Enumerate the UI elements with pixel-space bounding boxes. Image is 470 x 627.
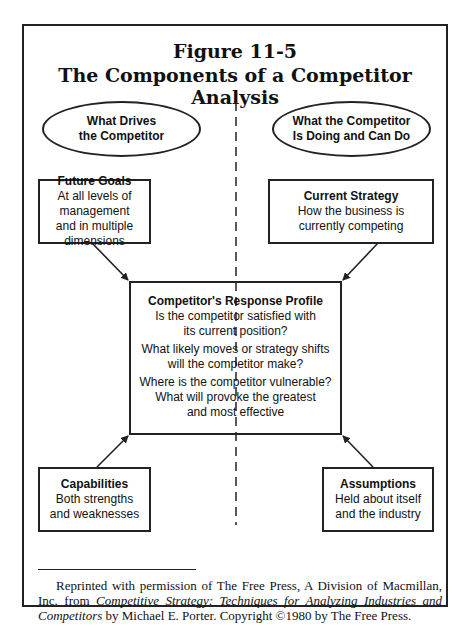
box-line: Both strengths (56, 492, 133, 507)
box-line: and the industry (335, 507, 420, 522)
box-response-profile: Competitor's Response Profile Is the com… (129, 281, 342, 435)
header-line: What Drives (79, 114, 164, 129)
question-line: will the competitor make? (168, 357, 303, 371)
question-line: Is the competitor satisfied with (155, 309, 316, 323)
credit-text: Reprinted with permission of The Free Pr… (38, 578, 442, 623)
box-title: Current Strategy (304, 189, 399, 204)
question-line: its current position? (183, 324, 287, 338)
arrow-capabilities (97, 436, 128, 467)
box-line: and in multiple dimensions (40, 219, 149, 249)
box-title: Assumptions (340, 477, 416, 492)
box-title: Competitor's Response Profile (148, 294, 323, 308)
question-line: Where is the competitor vulnerable? (139, 375, 331, 389)
box-title: Capabilities (61, 477, 128, 492)
box-capabilities: Capabilities Both strengths and weakness… (38, 467, 151, 532)
box-line: and weaknesses (50, 507, 139, 522)
header-what-drives: What Drivesthe Competitor (42, 101, 201, 157)
box-current-strategy: Current Strategy How the business is cur… (268, 179, 434, 244)
header-line: Is Doing and Can Do (293, 129, 411, 144)
question-line: and most effective (187, 405, 284, 419)
footnote-rule (38, 569, 196, 570)
box-assumptions: Assumptions Held about itself and the in… (322, 467, 434, 532)
arrow-assumptions (343, 436, 373, 467)
box-title: Future Goals (57, 174, 131, 189)
question-line: What likely moves or strategy shifts (141, 342, 329, 356)
box-line: How the business is (298, 204, 405, 219)
credit-part2: by Michael E. Porter. Copyright ©1980 by… (102, 608, 411, 623)
header-line: the Competitor (79, 129, 164, 144)
question-line: What will provoke the greatest (155, 390, 316, 404)
header-what-doing: What the CompetitorIs Doing and Can Do (272, 101, 431, 157)
box-line: Held about itself (335, 492, 421, 507)
box-line: At all levels of management (40, 189, 149, 219)
header-line: What the Competitor (293, 114, 411, 129)
box-line: currently competing (299, 219, 404, 234)
arrow-current-strategy (343, 243, 378, 280)
box-future-goals: Future Goals At all levels of management… (38, 179, 151, 244)
